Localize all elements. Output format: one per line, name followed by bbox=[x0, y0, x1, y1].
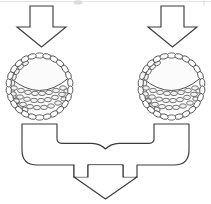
input-arrow-right bbox=[148, 6, 197, 47]
diagram-canvas: Two-input merge diagram Two downward inp… bbox=[0, 0, 211, 204]
vessel-right bbox=[138, 53, 206, 120]
input-arrow-left bbox=[17, 6, 66, 47]
scan-speck-artifact bbox=[74, 0, 83, 4]
vessel-left bbox=[6, 53, 74, 120]
merge-diagram bbox=[0, 0, 211, 204]
scan-artifacts bbox=[0, 0, 211, 6]
